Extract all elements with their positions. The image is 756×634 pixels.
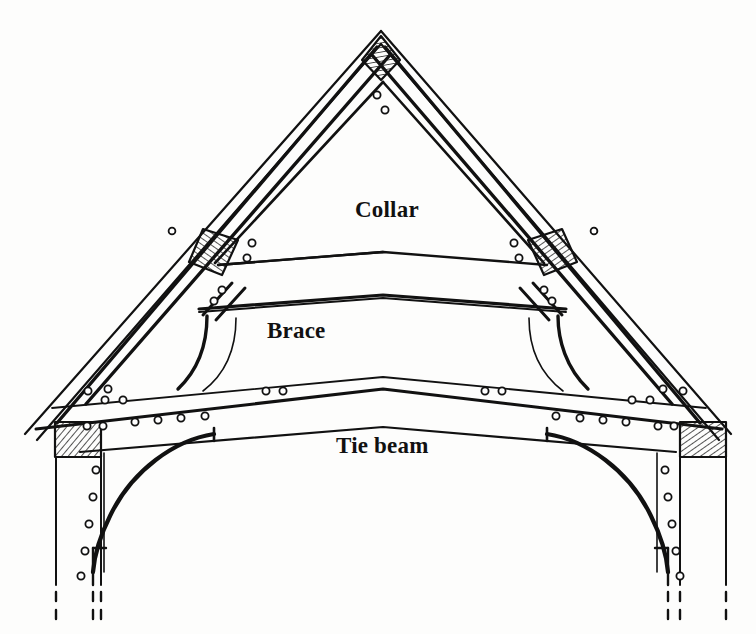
wall-plate-block-right [680,422,726,457]
arch-brace-right-outer [558,316,588,389]
lower-brace-left-outer [93,434,214,572]
wall-post-right-dashed [680,592,726,622]
wall-post-left-dashed [56,592,101,622]
wall-post-right [680,457,726,585]
roof-truss-figure: Collar Brace Tie beam [0,0,756,634]
lower-brace-right-outer [547,434,668,572]
label-collar: Collar [355,197,419,223]
tie-beam-top-edge [52,377,706,408]
peg-group-tiebeam-mid-left [262,387,286,394]
wall-plate-block-left [55,422,101,457]
label-brace: Brace [267,318,325,344]
apex-joint-block [362,36,400,80]
label-tie-beam: Tie beam [336,433,429,459]
peg-group-collar-right [591,228,598,235]
inner-rafter-left [215,82,383,263]
arch-brace-left-outer [178,316,207,389]
collar-beam [218,252,547,265]
truss-diagram-svg [0,0,756,634]
principal-rafter-right [372,47,700,423]
peg-group-collar-left [169,228,176,235]
peg-group-apex [373,91,388,113]
inner-rafter-right [383,82,544,263]
